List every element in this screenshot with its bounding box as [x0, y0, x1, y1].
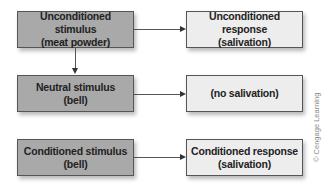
neutral-stimulus-label: Neutral stimulus [36, 81, 115, 94]
connector-ucs-ucr [134, 29, 180, 30]
no-salivation-box: (no salivation) [186, 75, 303, 112]
unconditioned-response-box: Unconditioned response (salivation) [186, 11, 303, 48]
unconditioned-stimulus-label: Unconditioned stimulus [18, 10, 133, 36]
conditioned-response-label: Conditioned response [191, 145, 298, 158]
conditioned-response-box: Conditioned response (salivation) [186, 139, 303, 176]
conditioned-stimulus-example: (bell) [64, 158, 88, 171]
copyright-credit: © Cengage Learning [312, 93, 321, 162]
conditioned-response-example: (salivation) [218, 158, 271, 171]
connector-ucs-neutral [75, 48, 76, 68]
unconditioned-response-example: (salivation) [218, 36, 271, 49]
connector-neutral-noresponse [134, 94, 180, 95]
connector-cs-cr [134, 157, 180, 158]
neutral-stimulus-box: Neutral stimulus (bell) [17, 75, 134, 112]
no-salivation-label: (no salivation) [210, 87, 278, 100]
arrowhead-down-icon [72, 68, 78, 74]
neutral-stimulus-example: (bell) [64, 94, 88, 107]
unconditioned-stimulus-box: Unconditioned stimulus (meat powder) [17, 11, 134, 48]
unconditioned-response-label: Unconditioned response [187, 10, 302, 36]
conditioned-stimulus-label: Conditioned stimulus [24, 145, 127, 158]
conditioned-stimulus-box: Conditioned stimulus (bell) [17, 139, 134, 176]
